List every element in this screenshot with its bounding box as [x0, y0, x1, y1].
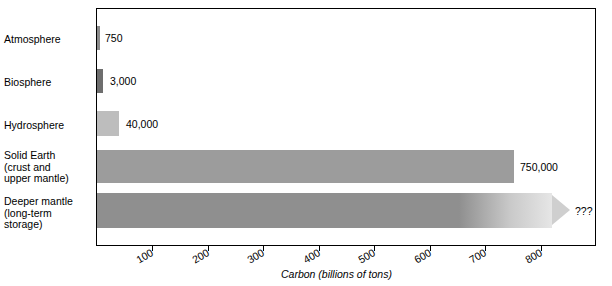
bar-value-deeper-mantle: ??? [575, 205, 593, 217]
bar-solid-earth [97, 150, 514, 183]
bar-hydrosphere [97, 111, 119, 136]
bar-deeper-mantle [97, 193, 459, 228]
bar-value-biosphere: 3,000 [110, 75, 136, 87]
bar-atmosphere [97, 26, 100, 50]
carbon-reservoirs-bar-chart: Atmosphere Biosphere Hydrosphere Solid E… [0, 0, 612, 286]
category-label-atmosphere: Atmosphere [4, 34, 92, 46]
bar-value-atmosphere: 750 [105, 32, 123, 44]
bar-value-hydrosphere: 40,000 [126, 118, 158, 130]
bar-deeper-mantle-arrow-icon [552, 195, 570, 225]
bar-value-solid-earth: 750,000 [520, 161, 558, 173]
bar-biosphere [97, 69, 103, 93]
category-label-biosphere: Biosphere [4, 77, 92, 89]
x-axis-title: Carbon (billions of tons) [281, 268, 392, 280]
category-label-hydrosphere: Hydrosphere [4, 120, 92, 132]
category-label-deeper-mantle: Deeper mantle (long-term storage) [4, 196, 92, 231]
category-label-solid-earth: Solid Earth (crust and upper mantle) [4, 150, 92, 185]
bar-deeper-mantle-fade [459, 193, 552, 228]
